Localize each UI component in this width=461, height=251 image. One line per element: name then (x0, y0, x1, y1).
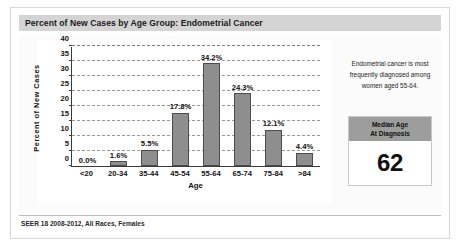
plot-container: Percent of New Cases 0510152025303540 0.… (37, 40, 332, 203)
gridline (72, 45, 320, 46)
plot-area: 0510152025303540 0.0%1.6%5.5%17.8%34.2%2… (71, 47, 320, 167)
y-tick-label: 10 (61, 123, 69, 132)
bar[interactable] (141, 150, 158, 167)
bar-value-label: 34.2% (201, 53, 223, 62)
x-tick-label: 35-44 (133, 169, 164, 178)
y-tick-label: 0 (65, 153, 69, 162)
bar-series: 0.0%1.6%5.5%17.8%34.2%24.3%12.1%4.4% (72, 47, 320, 166)
median-age-value: 62 (349, 141, 431, 185)
y-axis-label: Percent of New Cases (32, 58, 44, 158)
page-title: Percent of New Cases by Age Group: Endom… (19, 18, 263, 28)
side-note-text: Endometrial cancer is most frequently di… (344, 40, 436, 91)
median-age-header-line1: Median Age (372, 120, 408, 129)
x-tick-label: 65-74 (227, 169, 258, 178)
chart-title-bar: Percent of New Cases by Age Group: Endom… (19, 15, 441, 31)
x-axis-ticks: <2020-3435-4445-5455-6465-7475-84>84 (71, 169, 320, 178)
x-tick-label: 20-34 (102, 169, 133, 178)
side-panel: Endometrial cancer is most frequently di… (344, 40, 436, 203)
x-tick-label: <20 (71, 169, 102, 178)
bar-slot[interactable]: 17.8% (165, 47, 196, 166)
x-tick-label: 75-84 (258, 169, 289, 178)
bar[interactable] (203, 63, 220, 166)
bar-slot[interactable]: 1.6% (103, 47, 134, 166)
bar-slot[interactable]: 4.4% (289, 47, 320, 166)
chart-panel: Percent of New Cases 0510152025303540 0.… (19, 35, 441, 210)
y-tick-mark (69, 45, 72, 46)
footer-source: SEER 18 2008-2012, All Races, Females (21, 220, 145, 227)
x-tick-label: >84 (289, 169, 320, 178)
x-tick-label: 55-64 (196, 169, 227, 178)
bar[interactable] (265, 130, 282, 166)
y-tick-label: 35 (61, 48, 69, 57)
median-age-header-line2: At Diagnosis (370, 129, 410, 138)
y-tick-label: 20 (61, 93, 69, 102)
bar-slot[interactable]: 5.5% (134, 47, 165, 166)
y-tick-label: 5 (65, 138, 69, 147)
bar-slot[interactable]: 0.0% (72, 47, 103, 166)
bar-value-label: 4.4% (296, 142, 313, 151)
y-tick-label: 15 (61, 108, 69, 117)
bar-value-label: 12.1% (263, 119, 285, 128)
bar[interactable] (234, 93, 251, 166)
x-axis-label: Age (71, 181, 320, 190)
footer-divider (19, 215, 441, 216)
median-age-box: Median Age At Diagnosis 62 (348, 116, 432, 186)
y-tick-label: 25 (61, 78, 69, 87)
median-age-header: Median Age At Diagnosis (349, 117, 431, 141)
bar[interactable] (172, 113, 189, 166)
bar-slot[interactable]: 24.3% (227, 47, 258, 166)
bar-value-label: 0.0% (79, 156, 96, 165)
bar-value-label: 1.6% (110, 151, 127, 160)
chart-card: Percent of New Cases by Age Group: Endom… (10, 7, 450, 239)
y-tick-label: 30 (61, 63, 69, 72)
bar-value-label: 17.8% (170, 102, 192, 111)
x-tick-label: 45-54 (164, 169, 195, 178)
bar[interactable] (110, 161, 127, 166)
bar-value-label: 24.3% (232, 83, 254, 92)
bar-slot[interactable]: 12.1% (258, 47, 289, 166)
y-tick-label: 40 (61, 33, 69, 42)
bar[interactable] (296, 153, 313, 166)
bar-value-label: 5.5% (141, 139, 158, 148)
bar-slot[interactable]: 34.2% (196, 47, 227, 166)
